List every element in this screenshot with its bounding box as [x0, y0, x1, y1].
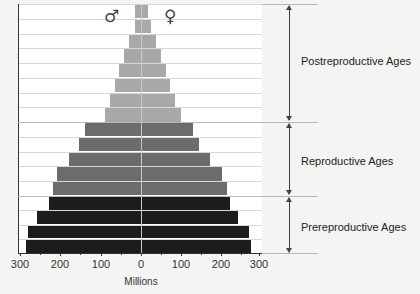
- x-tick-mark: [20, 253, 21, 256]
- postreproductive-label: Postreproductive Ages: [301, 55, 411, 67]
- x-tick-label: 200: [212, 258, 230, 270]
- x-tick-label: 300: [250, 258, 268, 270]
- arrow-down-icon: [286, 190, 292, 195]
- male-bar: [37, 211, 141, 224]
- female-symbol-icon: ♀: [164, 6, 176, 26]
- postreproductive-bracket: [289, 6, 290, 120]
- x-minor-tick-mark: [121, 253, 122, 255]
- bracket-divider-top: [262, 4, 318, 5]
- x-minor-tick-mark: [80, 253, 81, 255]
- male-bar: [28, 226, 141, 239]
- female-bar: [142, 79, 170, 92]
- prereproductive-bracket: [289, 198, 290, 252]
- x-tick-label: 300: [11, 258, 29, 270]
- male-bar: [124, 49, 141, 62]
- arrow-up-icon: [286, 123, 292, 128]
- female-bar: [142, 35, 156, 48]
- x-tick-label: 200: [51, 258, 69, 270]
- arrow-down-icon: [286, 116, 292, 121]
- female-bar: [142, 197, 230, 210]
- arrow-up-icon: [286, 197, 292, 202]
- x-tick-mark: [60, 253, 61, 256]
- x-axis-line: [18, 253, 262, 254]
- reproductive-bracket: [289, 124, 290, 194]
- x-tick-mark: [181, 253, 182, 256]
- female-bar: [142, 94, 175, 107]
- x-minor-tick-mark: [201, 253, 202, 255]
- male-bar: [79, 138, 141, 151]
- female-bar: [142, 182, 227, 195]
- male-bar: [129, 35, 141, 48]
- arrow-up-icon: [286, 5, 292, 10]
- male-symbol-icon: ♂: [104, 6, 119, 26]
- x-tick-label: 100: [172, 258, 190, 270]
- female-bar: [142, 167, 222, 180]
- male-bar: [53, 182, 141, 195]
- female-bar: [142, 5, 148, 18]
- x-tick-label: 100: [92, 258, 110, 270]
- x-minor-tick-mark: [241, 253, 242, 255]
- male-bar: [57, 167, 141, 180]
- female-bar: [142, 49, 161, 62]
- female-bar: [142, 123, 193, 136]
- x-tick-label: 0: [138, 258, 144, 270]
- male-bar: [110, 94, 141, 107]
- female-bar: [142, 240, 251, 253]
- x-tick-mark: [259, 253, 260, 256]
- x-tick-mark: [221, 253, 222, 256]
- male-bar: [69, 153, 141, 166]
- x-tick-mark: [101, 253, 102, 256]
- female-bar: [142, 211, 238, 224]
- male-bar: [115, 79, 141, 92]
- male-bar: [26, 240, 141, 253]
- male-bar: [49, 197, 141, 210]
- bracket-divider-bottom: [262, 253, 318, 254]
- prereproductive-label: Prereproductive Ages: [301, 221, 406, 233]
- x-axis-label: Millions: [124, 276, 157, 287]
- x-minor-tick-mark: [40, 253, 41, 255]
- male-bar: [119, 64, 141, 77]
- x-minor-tick-mark: [161, 253, 162, 255]
- reproductive-label: Reproductive Ages: [301, 155, 393, 167]
- center-axis-line: [141, 4, 142, 253]
- y-axis-line: [18, 4, 19, 253]
- female-bar: [142, 20, 151, 33]
- female-bar: [142, 108, 181, 121]
- female-bar: [142, 153, 210, 166]
- male-bar: [85, 123, 141, 136]
- female-bar: [142, 64, 166, 77]
- male-bar: [105, 108, 141, 121]
- female-bar: [142, 138, 199, 151]
- female-bar: [142, 226, 249, 239]
- x-tick-mark: [141, 253, 142, 256]
